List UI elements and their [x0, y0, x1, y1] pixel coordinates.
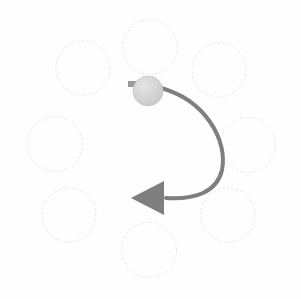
rotation-diagram-canvas: Rotation gesture diagram — [0, 0, 301, 299]
diagram-svg — [0, 0, 301, 299]
background — [0, 0, 301, 299]
rotation-handle[interactable] — [133, 76, 163, 106]
